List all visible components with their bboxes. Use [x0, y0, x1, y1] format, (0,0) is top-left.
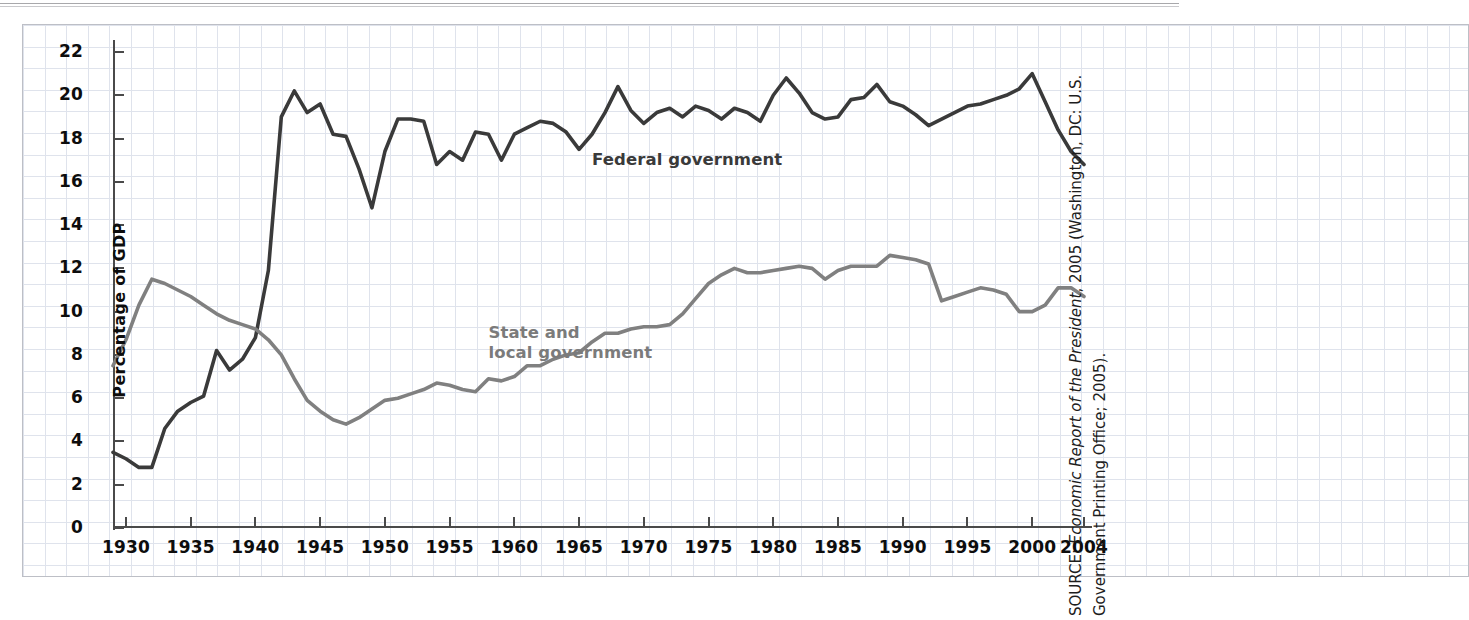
x-tick-label-1995: 1995 [943, 537, 991, 557]
x-tick-label-1945: 1945 [296, 537, 344, 557]
x-tick-label-1970: 1970 [620, 537, 668, 557]
series-lines [113, 52, 1084, 528]
annotation-state-local-line2: local government [488, 343, 652, 362]
source-prefix: SOURCE: [1067, 544, 1085, 616]
annotation-state-local-line1: State and [488, 323, 579, 342]
y-tick-label-6: 6 [71, 387, 83, 407]
x-tick-label-2000: 2000 [1008, 537, 1056, 557]
source-note-container: SOURCE: Economic Report of the President… [1101, 0, 1179, 620]
x-tick-label-1940: 1940 [231, 537, 279, 557]
y-tick-label-18: 18 [59, 128, 83, 148]
annotation-state-local: State andlocal government [488, 323, 652, 363]
x-tick-label-1980: 1980 [749, 537, 797, 557]
x-tick-label-1955: 1955 [426, 537, 474, 557]
y-tick-label-8: 8 [71, 344, 83, 364]
y-tick-label-4: 4 [71, 430, 83, 450]
source-title: Economic Report of the President [1067, 293, 1085, 545]
x-tick-label-1985: 1985 [814, 537, 862, 557]
y-tick-label-14: 14 [59, 214, 83, 234]
source-note: SOURCE: Economic Report of the President… [1064, 16, 1112, 616]
y-axis-title: Percentage of GDP [110, 222, 129, 397]
annotation-federal: Federal government [592, 150, 782, 170]
x-tick-label-1935: 1935 [167, 537, 215, 557]
y-tick-label-20: 20 [59, 84, 83, 104]
x-tick-label-1930: 1930 [102, 537, 150, 557]
series-line-federal [113, 74, 1084, 468]
x-tick-label-1960: 1960 [490, 537, 538, 557]
y-tick-label-2: 2 [71, 474, 83, 494]
y-tick-label-0: 0 [71, 517, 83, 537]
y-tick-label-16: 16 [59, 171, 83, 191]
x-tick-label-1965: 1965 [555, 537, 603, 557]
x-tick-label-1990: 1990 [879, 537, 927, 557]
y-tick-label-10: 10 [59, 301, 83, 321]
plot-area [113, 52, 1084, 528]
x-tick-label-1975: 1975 [684, 537, 732, 557]
y-tick-label-22: 22 [59, 41, 83, 61]
x-tick-label-1950: 1950 [361, 537, 409, 557]
top-rule-primary [0, 3, 1179, 4]
y-tick-label-12: 12 [59, 257, 83, 277]
top-rule-secondary [0, 6, 1179, 7]
